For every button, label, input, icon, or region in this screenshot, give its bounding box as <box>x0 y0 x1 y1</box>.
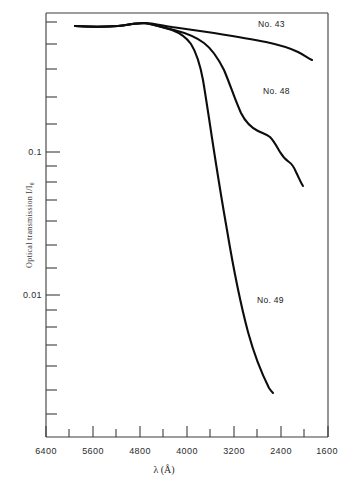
plot-frame <box>46 13 328 437</box>
curve-no-49 <box>75 23 273 393</box>
data-curves <box>75 23 312 393</box>
curve-label-no-49: No. 49 <box>257 295 284 305</box>
x-tick-label-6400: 6400 <box>35 446 57 456</box>
curve-no-48 <box>75 23 303 186</box>
y-axis-ticks <box>46 22 60 414</box>
curve-label-no-43: No. 43 <box>258 19 285 29</box>
x-axis-ticks <box>46 426 328 437</box>
y-tick-label-0.1: 0.1 <box>28 147 42 157</box>
x-tick-label-4000: 4000 <box>176 446 198 456</box>
x-tick-label-5600: 5600 <box>82 446 104 456</box>
y-axis-title: Optical transmission I/I₀ <box>25 182 34 268</box>
x-tick-label-4800: 4800 <box>129 446 151 456</box>
plot-canvas: 0.1 0.01 6400 5600 4800 4000 3200 2400 1… <box>0 0 348 481</box>
x-tick-label-3200: 3200 <box>223 446 245 456</box>
x-tick-label-2400: 2400 <box>270 446 292 456</box>
x-tick-label-1600: 1600 <box>316 446 338 456</box>
curve-label-no-48: No. 48 <box>263 86 290 96</box>
y-tick-label-0.01: 0.01 <box>23 290 42 300</box>
transmission-spectrum-figure: 0.1 0.01 6400 5600 4800 4000 3200 2400 1… <box>0 0 348 481</box>
x-axis-title: λ (Å) <box>153 464 174 476</box>
